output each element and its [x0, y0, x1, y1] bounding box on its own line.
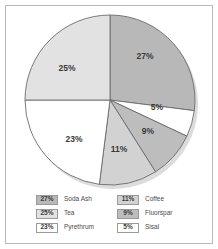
legend-item-label: Pyrethrum [64, 224, 94, 231]
pie-slice[interactable] [110, 15, 195, 111]
pie-slice-value-label: 5% [151, 102, 164, 112]
legend-item-label: Soda Ash [64, 196, 92, 203]
legend-item-label: Fluorspar [145, 210, 172, 217]
legend-item[interactable]: 9% Fluorspar [117, 208, 188, 219]
legend-column-left: 27% Soda Ash 25% Tea 23% Pyrethrum [36, 194, 107, 233]
pie-chart-area: 27%5%9%11%23%25% [0, 0, 218, 195]
pie-chart-figure: 27%5%9%11%23%25% 27% Soda Ash 25% Tea 23… [0, 0, 218, 249]
legend-item[interactable]: 27% Soda Ash [36, 194, 107, 205]
legend-item[interactable]: 5% Sisal [117, 222, 188, 233]
legend-swatch: 5% [117, 223, 139, 233]
legend-swatch: 11% [117, 195, 139, 205]
pie-slice-value-label: 25% [58, 63, 75, 73]
pie-slice-value-label: 9% [142, 126, 155, 136]
pie-slice[interactable] [25, 15, 110, 100]
legend-item[interactable]: 25% Tea [36, 208, 107, 219]
chart-legend: 27% Soda Ash 25% Tea 23% Pyrethrum 11% C… [36, 194, 188, 233]
pie-slices-group [25, 15, 195, 185]
pie-chart-svg: 27%5%9%11%23%25% [0, 0, 218, 195]
legend-swatch: 25% [36, 209, 58, 219]
legend-swatch: 23% [36, 223, 58, 233]
legend-item[interactable]: 11% Coffee [117, 194, 188, 205]
legend-item[interactable]: 23% Pyrethrum [36, 222, 107, 233]
legend-item-label: Coffee [145, 196, 164, 203]
pie-slice-value-label: 27% [136, 51, 153, 61]
legend-swatch: 27% [36, 195, 58, 205]
legend-column-right: 11% Coffee 9% Fluorspar 5% Sisal [117, 194, 188, 233]
pie-slice-value-label: 11% [111, 144, 128, 154]
legend-item-label: Tea [64, 210, 74, 217]
legend-swatch: 9% [117, 209, 139, 219]
pie-slice-value-label: 23% [65, 134, 82, 144]
legend-item-label: Sisal [145, 224, 159, 231]
